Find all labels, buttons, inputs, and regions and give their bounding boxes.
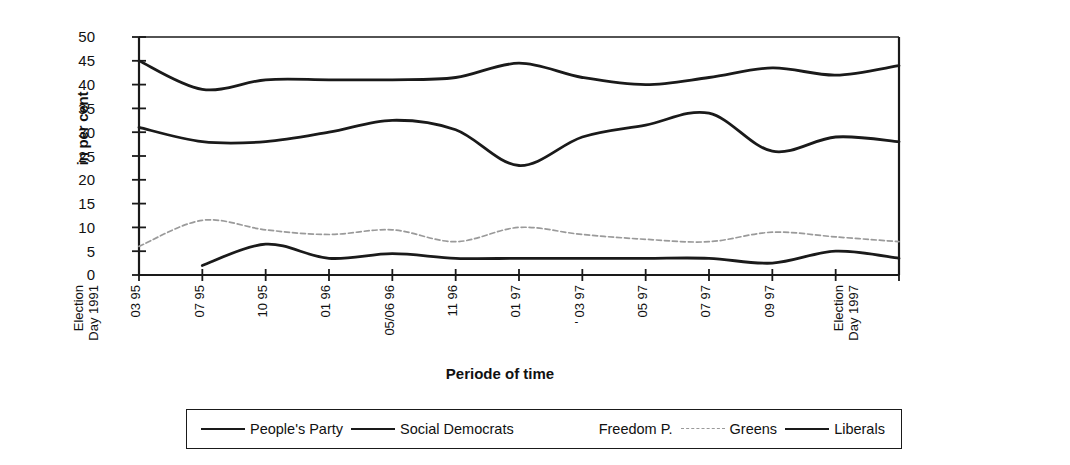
x-tick-label-line: 01 96 bbox=[319, 285, 333, 365]
x-tick-label-line: 05/06 96 bbox=[383, 285, 397, 365]
x-tick-label-line: 09 97 bbox=[763, 285, 777, 365]
legend-label: Greens bbox=[730, 421, 778, 437]
x-tick-label: 07 97 bbox=[699, 285, 713, 365]
plot-area bbox=[0, 0, 1070, 300]
x-tick-label-line: Day 1997 bbox=[846, 285, 861, 365]
x-tick-label-line: 07 97 bbox=[699, 285, 713, 365]
legend-label: People's Party bbox=[250, 421, 343, 437]
series-line-greens bbox=[139, 220, 899, 247]
x-tick-label-line: 07 95 bbox=[193, 285, 207, 365]
x-tick-label-line: 11 96 bbox=[446, 285, 460, 365]
x-tick-label: 09 97 bbox=[763, 285, 777, 365]
x-tick-label-line: Election bbox=[831, 285, 846, 365]
x-tick-label: 05/06 96 bbox=[383, 285, 397, 365]
x-tick-label: 01 96 bbox=[319, 285, 333, 365]
chart-legend: People's Party Social Democrats Freedom … bbox=[186, 409, 902, 449]
legend-item: People's Party bbox=[193, 421, 343, 437]
x-tick-label-line: 10 95 bbox=[256, 285, 270, 365]
x-tick-label-line: 01 97 bbox=[509, 285, 523, 365]
x-tick-label: ElectionDay 1991 bbox=[71, 285, 101, 365]
x-tick-label: 03 95 bbox=[129, 285, 143, 365]
x-tick-label-line: Election bbox=[71, 285, 86, 365]
x-tick-label-line: ' 03 97 bbox=[573, 285, 587, 365]
x-tick-label: ' 03 97 bbox=[573, 285, 587, 365]
x-axis-title: Periode of time bbox=[0, 365, 1000, 382]
x-tick-label-line: 05 97 bbox=[636, 285, 650, 365]
x-tick-label: ElectionDay 1997 bbox=[831, 285, 861, 365]
x-tick-label-line: 03 95 bbox=[129, 285, 143, 365]
x-tick-label: 07 95 bbox=[193, 285, 207, 365]
x-tick-label-line: Day 1991 bbox=[86, 285, 101, 365]
legend-item: Social Democrats bbox=[343, 421, 514, 437]
legend-label: Liberals bbox=[834, 421, 885, 437]
legend-label: Social Democrats bbox=[400, 421, 514, 437]
x-tick-label: 11 96 bbox=[446, 285, 460, 365]
legend-item: Freedom P. bbox=[542, 421, 673, 437]
legend-item: Greens bbox=[673, 421, 778, 437]
x-tick-label: 10 95 bbox=[256, 285, 270, 365]
series-line-liberals bbox=[202, 244, 899, 265]
legend-item: Liberals bbox=[777, 421, 885, 437]
legend-label: Freedom P. bbox=[599, 421, 673, 437]
series-line-people-s-party bbox=[139, 112, 899, 165]
chart-canvas: in per cent 50 45 40 35 30 25 20 15 10 5… bbox=[0, 0, 1070, 465]
x-tick-label: 05 97 bbox=[636, 285, 650, 365]
series-line-social-democrats bbox=[139, 61, 899, 90]
x-tick-label: 01 97 bbox=[509, 285, 523, 365]
